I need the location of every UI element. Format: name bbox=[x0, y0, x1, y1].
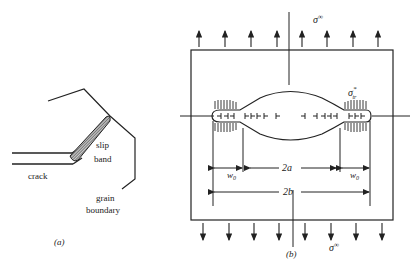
grain-label: grain bbox=[96, 193, 115, 203]
2b-label: 2b bbox=[283, 186, 293, 197]
2a-label: 2a bbox=[282, 162, 292, 173]
caption-b: (b) bbox=[286, 249, 297, 259]
crack-label: crack bbox=[28, 171, 48, 181]
sigma-inf-bottom-label: σ∞ bbox=[329, 241, 339, 253]
boundary-label: boundary bbox=[86, 205, 120, 215]
figure-canvas: crack slip band grain boundary (a) bbox=[0, 0, 416, 274]
slip-label: slip bbox=[96, 140, 110, 150]
w0-right-label: w0 bbox=[350, 170, 359, 181]
crack-profile bbox=[212, 92, 371, 141]
panel-b bbox=[180, 12, 410, 247]
sigma-tr-label: σ*tr bbox=[348, 85, 357, 100]
dislocations-right bbox=[301, 113, 365, 119]
w0-left-label: w0 bbox=[227, 170, 236, 181]
caption-a: (a) bbox=[54, 237, 65, 247]
band-label: band bbox=[94, 154, 112, 164]
dislocations-left bbox=[217, 113, 280, 119]
sigma-inf-top-label: σ∞ bbox=[313, 13, 323, 25]
panel-a: crack slip band grain boundary (a) bbox=[12, 89, 135, 247]
